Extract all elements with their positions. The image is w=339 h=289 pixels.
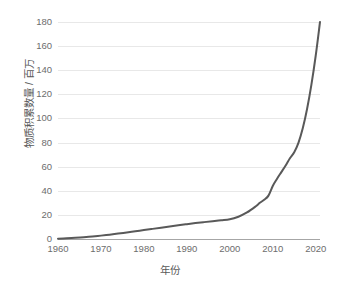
series-line-material-accumulation <box>58 22 320 239</box>
x-tick-label-1990: 1990 <box>165 244 209 254</box>
x-tick-label-1960: 1960 <box>36 244 80 254</box>
x-tick-label-2000: 2000 <box>208 244 252 254</box>
y-tick-label-180: 180 <box>18 17 52 27</box>
x-axis-title: 年份 <box>0 262 339 277</box>
x-tick-label-2020: 2020 <box>294 244 338 254</box>
y-axis-title: 物质积累数量 / 百万 <box>21 29 36 179</box>
x-tick-label-2010: 2010 <box>251 244 295 254</box>
x-tick-label-1980: 1980 <box>122 244 166 254</box>
y-tick-label-40: 40 <box>18 186 52 196</box>
plot-area <box>58 22 320 239</box>
gridline-y-0 <box>58 239 320 240</box>
x-tick-label-1970: 1970 <box>79 244 123 254</box>
y-tick-label-20: 20 <box>18 210 52 220</box>
line-chart: 020406080100120140160180 196019701980199… <box>0 0 339 289</box>
series-line-group <box>58 22 320 239</box>
